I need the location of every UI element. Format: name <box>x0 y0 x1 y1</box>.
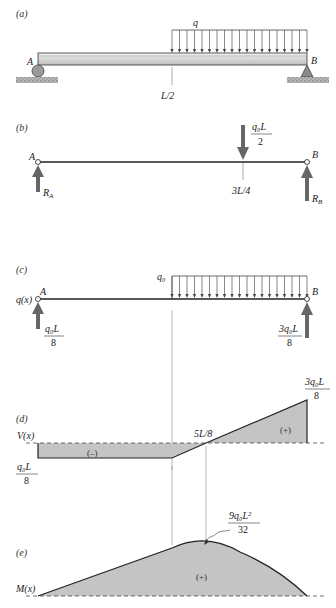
load-q-label: q <box>193 17 198 28</box>
shear-negative-region <box>38 443 206 458</box>
panel-c-label: (c) <box>16 264 28 276</box>
panel-d-label: (d) <box>16 413 28 425</box>
reaction-a-num: q₀L <box>45 323 59 334</box>
max-moment-num: 9q₀L² <box>229 510 252 521</box>
point-b-label: B <box>312 286 318 297</box>
beam <box>38 53 307 65</box>
panel-b: (b) A B q₀L 2 3L/4 RA RB <box>16 121 323 206</box>
reaction-a-den: 8 <box>51 337 56 348</box>
neg-value-num: q₀L <box>17 461 31 472</box>
pos-value-den: 8 <box>314 390 319 401</box>
hinge-a-icon <box>36 297 41 302</box>
zero-crossing-label: 5L/8 <box>194 428 212 439</box>
reaction-a-arrow <box>32 302 44 329</box>
hinge-b-icon <box>305 160 310 165</box>
pin-support-icon <box>301 65 313 77</box>
point-b-label: B <box>311 55 317 66</box>
point-b-label: B <box>312 149 318 160</box>
beam-analysis-figure: (a) q A B L/2 (b) A B q <box>0 0 336 608</box>
distributed-load-arrows <box>170 30 308 53</box>
panel-b-label: (b) <box>16 122 28 134</box>
panel-a: (a) q A B L/2 <box>16 8 329 101</box>
point-a-label: A <box>39 286 47 297</box>
reaction-b-label: RB <box>311 193 323 206</box>
moment-region <box>38 541 307 596</box>
panel-e-moment-diagram: (e) M(x) (+) 9q₀L² 32 <box>15 510 324 596</box>
ground-b <box>287 77 329 83</box>
pos-sign: (+) <box>196 572 207 582</box>
reaction-a-label: RA <box>42 187 54 200</box>
hinge-a-icon <box>36 160 41 165</box>
panel-c: (c) q₀ A B q(x) q₀L 8 3q₀L 8 <box>16 264 318 348</box>
panel-e-label: (e) <box>16 547 28 559</box>
distributed-load-q0 <box>170 276 308 299</box>
q-axis-label: q(x) <box>16 294 33 306</box>
reaction-b-arrow <box>301 302 313 338</box>
point-a-label: A <box>28 151 36 162</box>
reaction-b-num: 3q₀L <box>278 323 298 334</box>
pos-sign: (+) <box>280 425 291 435</box>
point-a-label: A <box>26 56 34 67</box>
resultant-force-arrow <box>237 125 249 160</box>
neg-sign: (–) <box>87 448 98 458</box>
ground-a <box>16 77 58 83</box>
resultant-num: q₀L <box>252 121 266 132</box>
midpoint-label: L/2 <box>160 90 174 101</box>
pos-value-num: 3q₀L <box>304 376 324 387</box>
load-q0-label: q₀ <box>157 271 166 282</box>
roller-support-icon <box>32 65 44 77</box>
reaction-b-den: 8 <box>287 337 292 348</box>
resultant-position-label: 3L/4 <box>231 185 250 196</box>
panel-d-shear-diagram: (d) V(x) (–) (+) 5L/8 q₀L 8 3q₀L 8 <box>16 376 330 486</box>
max-moment-den: 32 <box>238 524 248 535</box>
m-axis-label: M(x) <box>15 583 36 595</box>
panel-a-label: (a) <box>16 8 28 20</box>
neg-value-den: 8 <box>24 475 29 486</box>
resultant-den: 2 <box>258 136 263 147</box>
hinge-b-icon <box>305 297 310 302</box>
v-axis-label: V(x) <box>17 430 35 442</box>
